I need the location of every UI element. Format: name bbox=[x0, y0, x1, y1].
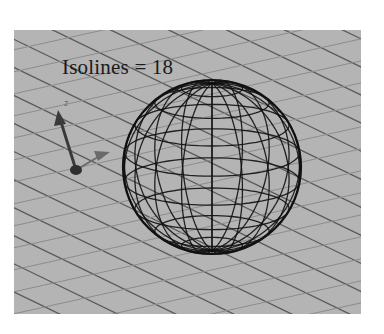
z-axis-line bbox=[61, 122, 76, 170]
z-axis-label: z bbox=[64, 98, 69, 108]
z-axis-arrow-icon bbox=[54, 110, 66, 126]
3d-viewport[interactable]: z Isolines = 18 bbox=[14, 30, 361, 314]
gizmo-origin bbox=[70, 165, 82, 175]
isolines-label: Isolines = 18 bbox=[62, 55, 173, 80]
wireframe-sphere bbox=[123, 80, 301, 254]
x-axis-arrow-icon bbox=[94, 151, 110, 161]
